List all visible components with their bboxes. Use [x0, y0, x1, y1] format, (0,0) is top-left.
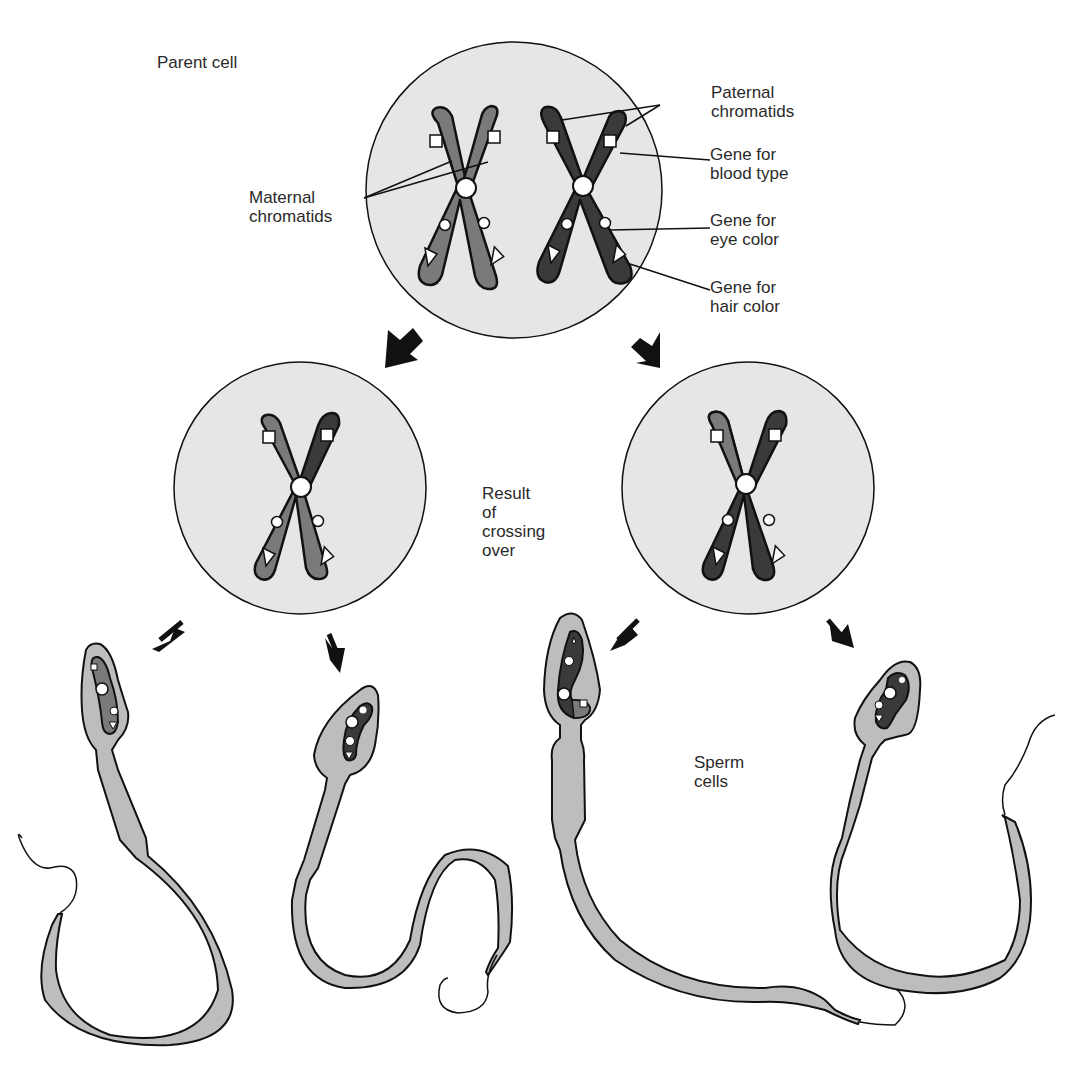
arrow-down-left-icon — [610, 626, 638, 651]
gene-blood-type-label: Gene for blood type — [710, 145, 788, 183]
daughter-cell-left — [174, 362, 426, 614]
maternal-chromatids-label: Maternal chromatids — [249, 188, 332, 226]
sperm-cells-label: Sperm cells — [694, 753, 744, 791]
arrow-down-left-icon — [385, 328, 423, 368]
arrow-down-right-icon — [631, 332, 660, 368]
parent-cell-label: Parent cell — [157, 53, 237, 72]
gene-eye-color-label: Gene for eye color — [710, 211, 779, 249]
gene-hair-color-label: Gene for hair color — [710, 278, 780, 316]
result-crossing-over-label: Result of crossing over — [482, 484, 545, 560]
sperm-cell-1 — [18, 644, 232, 1048]
sperm-cell-4 — [831, 661, 1055, 993]
paternal-chromatids-label: Paternal chromatids — [711, 83, 794, 121]
arrow-shafts — [160, 620, 845, 656]
sperm-cell-2 — [292, 686, 512, 1013]
parent-cell — [364, 42, 710, 338]
daughter-cell-right — [622, 362, 874, 614]
